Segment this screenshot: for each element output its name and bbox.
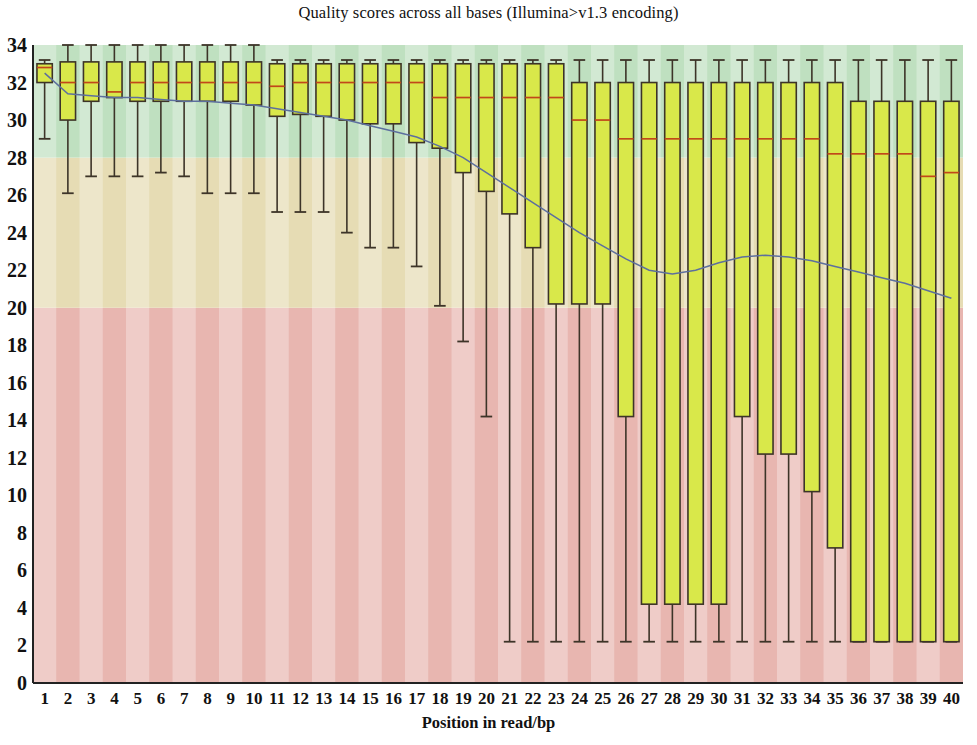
boxplot-box [688, 60, 703, 642]
box-iqr [572, 83, 587, 304]
column-stripe [33, 45, 56, 683]
box-iqr [897, 101, 912, 641]
y-tick-label: 16 [7, 372, 27, 394]
box-iqr [851, 101, 866, 641]
boxplot-box [665, 60, 680, 642]
box-iqr [293, 64, 308, 115]
y-tick-label: 10 [7, 484, 27, 506]
y-tick-label: 18 [7, 334, 27, 356]
x-tick-label: 25 [594, 689, 611, 708]
x-tick-label: 1 [40, 689, 49, 708]
x-tick-label: 15 [362, 689, 379, 708]
box-iqr [60, 62, 75, 120]
box-iqr [665, 83, 680, 605]
box-iqr [316, 64, 331, 117]
y-tick-label: 4 [17, 597, 27, 619]
x-tick-label: 29 [687, 689, 704, 708]
y-tick-label: 6 [17, 559, 27, 581]
x-axis-title: Position in read/bp [0, 713, 977, 733]
boxplot-box [897, 60, 912, 642]
y-axis-tick-labels: 0246810121416182022242628303234 [7, 34, 27, 694]
box-iqr [944, 101, 959, 641]
box-iqr [711, 83, 726, 605]
y-tick-label: 14 [7, 409, 27, 431]
x-tick-label: 32 [757, 689, 774, 708]
boxplot-box [944, 60, 959, 642]
x-tick-label: 40 [943, 689, 960, 708]
box-iqr [153, 62, 168, 101]
y-tick-label: 12 [7, 447, 27, 469]
box-iqr [246, 62, 261, 105]
x-tick-label: 20 [478, 689, 495, 708]
y-tick-label: 34 [7, 34, 27, 56]
box-iqr [688, 83, 703, 605]
boxplot-box [920, 60, 935, 642]
box-iqr [920, 101, 935, 641]
box-iqr [734, 83, 749, 417]
x-tick-label: 35 [827, 689, 844, 708]
x-tick-label: 33 [780, 689, 797, 708]
x-axis-tick-labels: 1234567891011121314151617181920212223242… [40, 689, 960, 708]
x-tick-label: 26 [617, 689, 634, 708]
x-tick-label: 17 [408, 689, 426, 708]
box-iqr [339, 64, 354, 120]
box-iqr [641, 83, 656, 605]
x-tick-label: 23 [548, 689, 565, 708]
x-tick-label: 28 [664, 689, 681, 708]
x-tick-label: 37 [873, 689, 891, 708]
x-tick-label: 18 [431, 689, 448, 708]
boxplot-box [641, 60, 656, 642]
box-iqr [874, 101, 889, 641]
box-iqr [130, 62, 145, 101]
x-tick-label: 38 [896, 689, 913, 708]
x-tick-label: 3 [87, 689, 96, 708]
x-tick-label: 36 [850, 689, 867, 708]
x-tick-label: 22 [524, 689, 541, 708]
plot-canvas: 0246810121416182022242628303234 12345678… [0, 0, 977, 745]
x-tick-label: 7 [180, 689, 189, 708]
x-tick-label: 5 [133, 689, 142, 708]
y-tick-label: 8 [17, 522, 27, 544]
x-tick-label: 27 [641, 689, 659, 708]
y-tick-label: 32 [7, 72, 27, 94]
box-iqr [432, 64, 447, 148]
box-iqr [618, 83, 633, 417]
x-tick-label: 13 [315, 689, 332, 708]
x-tick-label: 34 [803, 689, 821, 708]
box-iqr [455, 64, 470, 173]
y-tick-label: 0 [17, 672, 27, 694]
box-iqr [362, 64, 377, 124]
box-iqr [176, 62, 191, 101]
x-tick-label: 6 [157, 689, 166, 708]
x-tick-label: 24 [571, 689, 589, 708]
x-tick-label: 11 [269, 689, 285, 708]
x-tick-label: 9 [226, 689, 235, 708]
x-tick-label: 8 [203, 689, 212, 708]
x-tick-label: 21 [501, 689, 518, 708]
x-tick-label: 2 [64, 689, 73, 708]
box-iqr [525, 64, 540, 248]
x-tick-label: 31 [734, 689, 751, 708]
y-tick-label: 28 [7, 147, 27, 169]
y-tick-label: 22 [7, 259, 27, 281]
boxplot-box [874, 60, 889, 642]
x-tick-label: 12 [292, 689, 309, 708]
box-iqr [223, 62, 238, 101]
x-tick-label: 14 [338, 689, 356, 708]
box-iqr [200, 62, 215, 101]
y-tick-label: 26 [7, 184, 27, 206]
boxplot-box [851, 60, 866, 642]
box-iqr [804, 83, 819, 492]
y-tick-label: 24 [7, 222, 27, 244]
x-tick-label: 39 [920, 689, 937, 708]
box-iqr [409, 64, 424, 143]
y-tick-label: 30 [7, 109, 27, 131]
y-tick-label: 2 [17, 634, 27, 656]
x-tick-label: 16 [385, 689, 402, 708]
quality-score-boxplot-chart: Quality scores across all bases (Illumin… [0, 0, 977, 745]
x-tick-label: 30 [710, 689, 727, 708]
y-tick-label: 20 [7, 297, 27, 319]
x-tick-label: 4 [110, 689, 119, 708]
box-iqr [595, 83, 610, 304]
box-iqr [827, 83, 842, 548]
